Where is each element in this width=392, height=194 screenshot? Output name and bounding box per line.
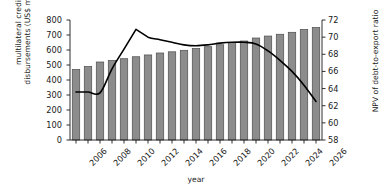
right-tick-label-62: 62 <box>328 102 354 110</box>
bar-2018 <box>216 45 223 140</box>
bar-2017 <box>204 47 211 140</box>
left-tick-label-100: 100 <box>36 121 62 129</box>
bar-2011 <box>132 57 139 140</box>
left-tick-label-500: 500 <box>36 61 62 69</box>
left-tick-label-800: 800 <box>36 16 62 24</box>
bar-2016 <box>192 49 199 141</box>
bar-2013 <box>156 53 163 140</box>
chart-figure: multilateral credit disbursements (US$ m… <box>0 0 392 194</box>
bar-2021 <box>252 38 259 140</box>
bar-2024 <box>288 32 295 140</box>
bar-2007 <box>84 67 91 141</box>
left-tick-label-600: 600 <box>36 46 62 54</box>
bar-2026 <box>312 28 319 141</box>
right-tick-label-70: 70 <box>328 33 354 41</box>
bar-2010 <box>120 59 127 140</box>
right-tick-label-68: 68 <box>328 50 354 58</box>
right-tick-label-66: 66 <box>328 67 354 75</box>
left-tick-label-700: 700 <box>36 31 62 39</box>
left-tick-label-300: 300 <box>36 91 62 99</box>
bar-2008 <box>96 62 103 140</box>
bar-2006 <box>72 70 79 141</box>
left-tick-label-400: 400 <box>36 76 62 84</box>
bar-2023 <box>276 34 283 140</box>
bar-2019 <box>228 43 235 141</box>
right-tick-label-72: 72 <box>328 16 354 24</box>
right-tick-label-60: 60 <box>328 119 354 127</box>
bar-2020 <box>240 41 247 140</box>
bar-2014 <box>168 52 175 140</box>
left-tick-label-200: 200 <box>36 106 62 114</box>
bar-2015 <box>180 50 187 140</box>
right-tick-label-64: 64 <box>328 85 354 93</box>
left-tick-label-0: 0 <box>36 136 62 144</box>
bar-2012 <box>144 55 151 140</box>
right-tick-label-58: 58 <box>328 136 354 144</box>
